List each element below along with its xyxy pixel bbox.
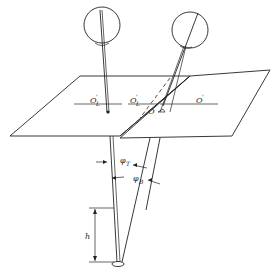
- phi-b-arrowhead-right: [148, 178, 152, 182]
- label-o-left-sub: L: [95, 100, 100, 107]
- h-arrowhead-top: [93, 209, 97, 214]
- label-phi-t-sub: T: [126, 160, 131, 167]
- label-phi-b-sub: B: [138, 178, 144, 185]
- phi-t-arrowhead-left: [103, 160, 107, 164]
- diagram-figure: O L ' O L ' O O ' φ T φ B h: [0, 0, 277, 272]
- h-arrowhead-bottom: [93, 256, 97, 261]
- left-lower-beam-a: [110, 136, 117, 262]
- label-h: h: [85, 232, 90, 241]
- label-o-mid-sub: L: [135, 100, 140, 107]
- left-beam-spot: [106, 110, 109, 113]
- phi-t-arrowhead-right: [133, 163, 137, 167]
- right-sphere: [172, 12, 208, 48]
- reflected-beam-b: [146, 138, 160, 210]
- left-lower-beam-b: [113, 136, 120, 262]
- reflected-beam-t: [122, 138, 150, 262]
- label-o-center: O: [148, 107, 155, 116]
- geometry-diagram: O L ' O L ' O O ' φ T φ B h: [0, 0, 277, 272]
